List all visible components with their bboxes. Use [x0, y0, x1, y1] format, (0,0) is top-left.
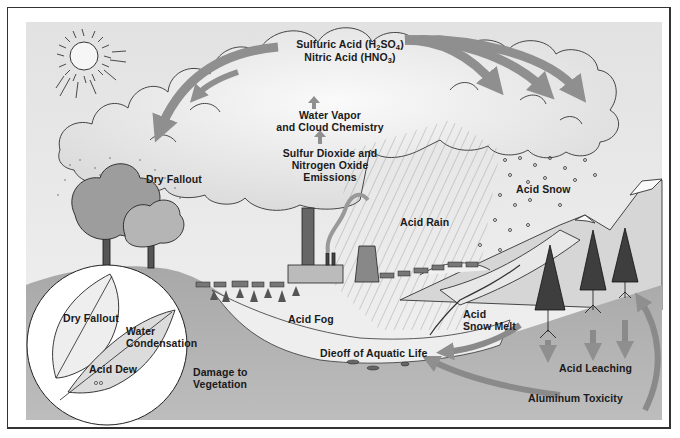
- condensation-line2: Condensation: [126, 337, 197, 349]
- nitric-acid-text: Nitric Acid (HNO: [304, 51, 387, 63]
- nitric-close: ): [392, 51, 396, 63]
- water-vapor-line2: and Cloud Chemistry: [260, 121, 400, 133]
- emissions-line1: Sulfur Dioxide and: [265, 147, 395, 159]
- snow-melt-line2: Snow Melt: [463, 320, 516, 332]
- sulfuric-so: SO: [380, 38, 395, 50]
- label-nitric-acid: Nitric Acid (HNO3): [280, 51, 420, 67]
- label-water-vapor: Water Vapor and Cloud Chemistry: [260, 109, 400, 133]
- label-dry-fallout: Dry Fallout: [146, 173, 202, 185]
- condensation-line1: Water: [126, 325, 197, 337]
- inset-label-water-condensation: Water Condensation: [126, 325, 197, 349]
- emissions-line3: Emissions: [265, 171, 395, 183]
- label-acid-snow-melt: Acid Snow Melt: [463, 308, 516, 332]
- sulfuric-acid-text: Sulfuric Acid (H: [296, 38, 376, 50]
- water-vapor-line1: Water Vapor: [260, 109, 400, 121]
- emissions-line2: Nitrogen Oxide: [265, 159, 395, 171]
- inset-label-acid-dew: Acid Dew: [89, 363, 137, 375]
- snow-melt-line1: Acid: [463, 308, 516, 320]
- label-aluminum-toxicity: Aluminum Toxicity: [528, 392, 623, 404]
- label-damage-vegetation: Damage to Vegetation: [193, 366, 248, 390]
- inset-label-dry-fallout: Dry Fallout: [63, 312, 119, 324]
- damage-line2: Vegetation: [193, 378, 248, 390]
- label-acid-rain: Acid Rain: [400, 216, 449, 228]
- label-dieoff: Dieoff of Aquatic Life: [320, 347, 427, 359]
- damage-line1: Damage to: [193, 366, 248, 378]
- label-acid-snow: Acid Snow: [516, 183, 571, 195]
- sulfuric-close: ): [400, 38, 404, 50]
- label-acid-leaching: Acid Leaching: [559, 362, 632, 374]
- label-acid-fog: Acid Fog: [288, 313, 334, 325]
- label-emissions: Sulfur Dioxide and Nitrogen Oxide Emissi…: [265, 147, 395, 183]
